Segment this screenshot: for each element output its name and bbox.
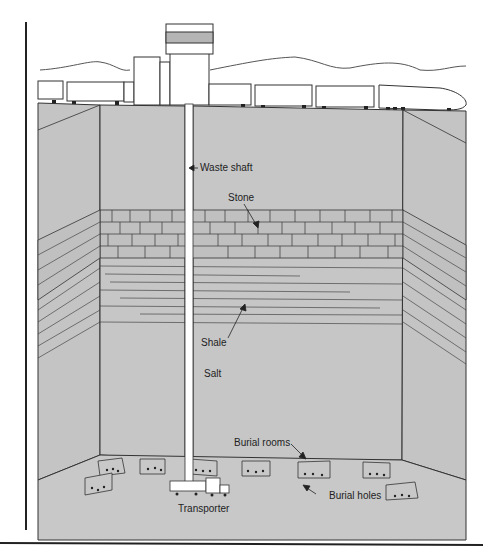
label-transporter: Transporter: [178, 503, 229, 514]
building-band: [166, 32, 213, 43]
repository-cross-section: [0, 0, 483, 556]
label-burial-rooms: Burial rooms: [234, 437, 290, 448]
waste-shaft: [185, 104, 193, 482]
label-salt: Salt: [204, 368, 221, 379]
rock-right-face: [402, 110, 466, 480]
label-burial-holes: Burial holes: [329, 490, 381, 501]
label-waste-shaft: Waste shaft: [200, 162, 252, 173]
label-stone: Stone: [228, 192, 254, 203]
mountains-outline: [40, 57, 466, 70]
frame-bottom-line: [0, 543, 483, 545]
surface-facilities: [38, 24, 466, 110]
label-shale: Shale: [201, 337, 227, 348]
